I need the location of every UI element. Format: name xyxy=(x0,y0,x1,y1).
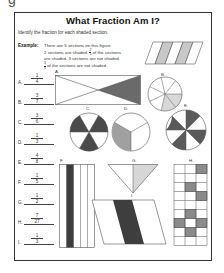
figure-h-label: H. xyxy=(189,158,193,163)
answer-b[interactable]: B.37 xyxy=(18,87,54,107)
instructions: Identify the fraction for each shaded se… xyxy=(18,30,108,35)
page-fragment-glyph: g xyxy=(8,0,16,7)
figure-f-strips xyxy=(59,164,95,248)
worksheet-title: What Fraction Am I? xyxy=(15,15,211,26)
figure-i-parallelogram xyxy=(91,199,167,245)
figure-b-circle xyxy=(147,76,183,112)
figure-c-circle xyxy=(69,112,109,152)
answer-d[interactable]: D.13 xyxy=(18,127,54,147)
worksheet: What Fraction Am I? Identify the fractio… xyxy=(14,12,212,261)
figure-f-label: F. xyxy=(60,158,63,163)
figure-a-label: A. xyxy=(55,69,59,74)
figure-e-label: E. xyxy=(184,103,188,108)
figure-d-label: D. xyxy=(124,106,128,111)
figure-a-rectangle xyxy=(55,75,141,105)
example-line-4: 35 of the sections are not shaded. xyxy=(44,62,152,69)
example-line-2: 2 sections are shaded. 25 of the section… xyxy=(44,49,152,56)
answer-f[interactable]: F.15 xyxy=(18,167,54,187)
answer-g[interactable]: G.12 xyxy=(18,187,54,207)
example-text: There are 5 sections on this figure. 2 s… xyxy=(44,43,152,70)
example-figure-parallelogram xyxy=(141,40,207,66)
answer-h[interactable]: H.727 xyxy=(18,207,54,227)
figure-g-triangle xyxy=(107,164,159,194)
figure-e-circle xyxy=(165,109,207,151)
figure-g-label: G. xyxy=(132,158,137,163)
figure-c-label: C. xyxy=(86,106,90,111)
example-fraction-shaded: 25 xyxy=(89,49,91,56)
answer-a[interactable]: A.14 xyxy=(18,67,54,87)
answer-i[interactable]: I.13 xyxy=(18,227,54,247)
example-label: Example: xyxy=(18,43,38,48)
figure-h-grid xyxy=(173,164,209,248)
figure-i-label: I. xyxy=(131,193,133,198)
figure-d-circle xyxy=(111,112,151,152)
answer-c[interactable]: C.36 xyxy=(18,107,54,127)
answer-e[interactable]: E.48 xyxy=(18,147,54,167)
